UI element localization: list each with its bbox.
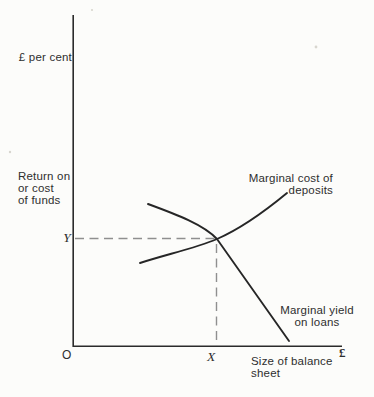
scan-speck (9, 151, 11, 153)
curve-label-marginal-yield-on-loans: Marginal yield on loans (278, 304, 356, 328)
marginal-cost-of-deposits-curve (140, 193, 287, 263)
equilibrium-x-label: X (207, 350, 215, 363)
equilibrium-y-label: Y (63, 231, 71, 244)
x-axis-unit-label: £ (339, 346, 346, 359)
marginal-yield-on-loans-curve (148, 204, 289, 341)
scan-speck (91, 9, 93, 11)
curve-label-marginal-cost-of-deposits: Marginal cost of deposits (249, 172, 333, 196)
figure-canvas: £ per cent Return on or cost of funds Y … (0, 0, 374, 397)
x-axis-title: Size of balance sheet (251, 355, 333, 379)
y-axis-unit-label: £ per cent (19, 51, 72, 63)
origin-label: O (62, 349, 72, 361)
scan-speck (315, 46, 318, 49)
y-axis-title: Return on or cost of funds (18, 170, 70, 207)
